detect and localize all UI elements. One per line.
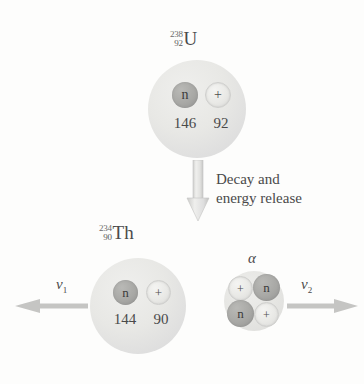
daughter-isotope-label: 234 90 Th [99,222,134,244]
neutron-glyph: n [263,281,270,294]
parent-atomic-number: 92 [170,39,183,48]
velocity-right-symbol: v [301,276,308,292]
alpha-nucleon-neutron-bottom-left: n [227,300,254,327]
neutron-glyph: n [237,307,244,320]
parent-proton-count: 92 [196,115,246,132]
parent-element-symbol: U [184,28,198,50]
alpha-particle: + n n + [224,271,284,331]
alpha-nucleon-neutron-top-right: n [253,274,280,301]
velocity-left-subscript: 1 [63,285,68,295]
daughter-proton-count: 90 [137,311,185,328]
alpha-nucleon-proton-top-left: + [228,276,253,301]
alpha-particle-label: α [248,250,256,267]
alpha-decay-diagram: 238 92 U n + 146 92 [0,0,364,384]
neutron-glyph: n [182,88,189,102]
velocity-right-arrow-icon [287,298,359,314]
proton-glyph: + [155,286,162,299]
decay-caption-line-2: energy release [216,189,302,208]
proton-glyph: + [237,283,244,295]
proton-glyph: + [214,88,222,102]
velocity-right-label: v2 [301,276,312,295]
parent-nucleus: n + 146 92 [148,60,246,158]
neutron-glyph: n [122,286,129,299]
daughter-isotope-numbers: 234 90 [99,224,112,241]
decay-caption-line-1: Decay and [216,170,302,189]
velocity-left-symbol: v [56,276,63,292]
decay-arrow-icon [184,160,212,222]
daughter-element-symbol: Th [113,222,134,244]
parent-isotope-numbers: 238 92 [170,30,183,47]
parent-isotope-label: 238 92 U [170,28,197,50]
proton-glyph: + [263,309,270,321]
parent-neutron-marker: n [172,82,198,108]
velocity-left-label: v1 [56,276,67,295]
decay-caption: Decay and energy release [216,170,302,208]
daughter-atomic-number: 90 [99,233,112,242]
alpha-nucleon-proton-bottom-right: + [254,302,279,327]
daughter-proton-marker: + [146,280,171,305]
velocity-left-arrow-icon [14,298,88,314]
daughter-nucleus: n + 144 90 [90,258,186,354]
daughter-neutron-marker: n [113,280,138,305]
velocity-right-subscript: 2 [308,285,313,295]
parent-proton-marker: + [205,82,231,108]
